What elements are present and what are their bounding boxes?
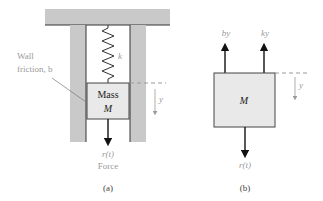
free-body-mass-label: M (239, 95, 249, 106)
left-wall (70, 25, 86, 142)
displacement-label: y (158, 94, 163, 104)
panel-a: k Mass M Wall friction, b y r(t) Force (… (17, 9, 170, 193)
mass-spring-damper-diagram: k Mass M Wall friction, b y r(t) Force (… (0, 0, 323, 201)
ceiling (45, 9, 170, 25)
wall-friction-label-line1: Wall (17, 51, 34, 61)
spring-force-label: ky (261, 28, 269, 38)
panel-a-caption: (a) (103, 183, 113, 193)
displacement-label-b: y (298, 80, 303, 90)
panel-b: by ky M y r(t) (b) (214, 28, 308, 193)
mass-symbol: M (103, 103, 113, 114)
force-caption: Force (98, 161, 119, 171)
force-label: r(t) (102, 149, 114, 159)
mass-label: Mass (97, 89, 118, 100)
panel-b-caption: (b) (240, 183, 251, 193)
applied-force-label: r(t) (239, 160, 251, 170)
spring-label: k (118, 51, 123, 61)
damping-force-label: by (222, 28, 231, 38)
spring-icon (102, 25, 114, 83)
wall-friction-label-line2: friction, b (17, 64, 53, 74)
